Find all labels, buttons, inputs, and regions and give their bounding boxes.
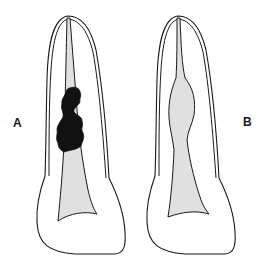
panel-label-b: B: [243, 116, 252, 128]
tooth-b-outline: [147, 16, 235, 254]
tooth-a: [37, 16, 125, 254]
dental-diagram: A B: [0, 0, 273, 269]
panel-label-a: A: [13, 117, 22, 129]
diagram-canvas: [0, 0, 273, 269]
tooth-b: [147, 16, 235, 254]
